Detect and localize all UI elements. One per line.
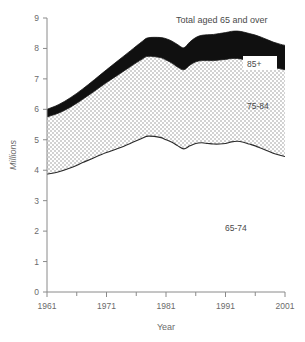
- y-tick-label: 0: [34, 287, 39, 297]
- stacked-area-bands: [47, 31, 285, 292]
- population-age-area-chart: 0123456789 19611971198119912001 Total ag…: [0, 0, 305, 342]
- y-tick-label: 1: [34, 257, 39, 267]
- y-tick-label: 4: [34, 165, 39, 175]
- y-tick-label: 5: [34, 135, 39, 145]
- chart-canvas: 0123456789 19611971198119912001 Total ag…: [0, 0, 305, 342]
- y-tick-label: 3: [34, 196, 39, 206]
- x-axis-ticks: 19611971198119912001: [38, 292, 295, 311]
- series-label-75-84: 75-84: [247, 101, 269, 111]
- x-tick-label: 1961: [38, 301, 57, 311]
- y-tick-label: 8: [34, 43, 39, 53]
- series-label-65-74: 65-74: [225, 223, 247, 233]
- y-axis-title: Millions: [8, 140, 18, 171]
- x-tick-label: 1981: [157, 301, 176, 311]
- chart-title: Total aged 65 and over: [176, 15, 268, 25]
- x-tick-label: 2001: [276, 301, 295, 311]
- x-tick-label: 1991: [216, 301, 235, 311]
- series-label-85-plus: 85+: [247, 59, 261, 69]
- label-85-plus-group: 85+: [243, 56, 277, 70]
- y-axis-ticks: 0123456789: [34, 13, 47, 297]
- y-tick-label: 9: [34, 13, 39, 23]
- x-tick-label: 1971: [97, 301, 116, 311]
- y-tick-label: 2: [34, 226, 39, 236]
- x-axis-title: Year: [157, 322, 175, 332]
- y-tick-label: 7: [34, 74, 39, 84]
- y-tick-label: 6: [34, 104, 39, 114]
